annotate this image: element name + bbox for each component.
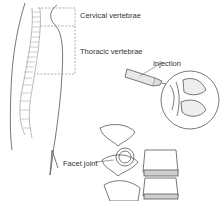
vertebrae-detail xyxy=(95,125,178,201)
label-cervical-vertebrae: Cervical vertebrae xyxy=(80,12,141,20)
spine-illustration: Cervical vertebrae Thoracic vertebrae In… xyxy=(0,0,224,201)
magnified-view xyxy=(161,71,219,129)
label-injection: Injection xyxy=(153,60,181,68)
illustration-drawing xyxy=(0,0,224,201)
spine-column xyxy=(20,8,41,138)
label-facet-joint: Facet joint xyxy=(63,160,98,168)
region-brackets xyxy=(35,8,75,74)
label-thoracic-vertebrae: Thoracic vertebrae xyxy=(80,48,143,56)
body-outline xyxy=(10,3,62,175)
